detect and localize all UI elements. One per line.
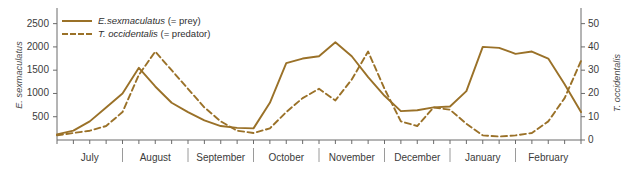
legend-item-prey: E.sexmaculatus (= prey) — [62, 11, 210, 24]
legend-swatch-solid-line-icon — [62, 20, 92, 22]
tick-marks — [53, 24, 585, 144]
data-series — [57, 42, 581, 136]
chart-legend: E.sexmaculatus (= prey)T. occidentalis (… — [62, 11, 210, 37]
legend-swatch-dashed-line-icon — [62, 33, 92, 35]
population-cycles-chart: E. sexmaculatus T. occidentalis 25002000… — [0, 0, 622, 179]
series-line-predator — [57, 52, 581, 137]
legend-label: T. occidentalis (= predator) — [98, 28, 210, 39]
legend-role-label: (= predator) — [158, 28, 211, 39]
legend-item-predator: T. occidentalis (= predator) — [62, 24, 210, 37]
legend-species-name: T. occidentalis — [98, 28, 158, 39]
month-separator-lines — [123, 148, 516, 162]
